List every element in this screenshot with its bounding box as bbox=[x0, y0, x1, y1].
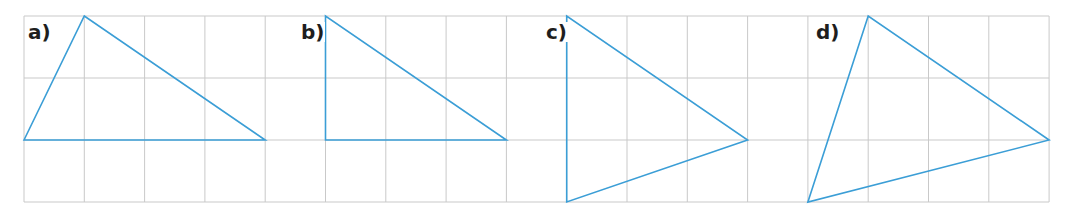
label-a: a) bbox=[27, 22, 52, 42]
label-c: c) bbox=[545, 22, 568, 42]
triangle-c bbox=[567, 16, 748, 202]
triangle-exercise-figure: a) b) c) d) bbox=[0, 0, 1070, 204]
label-d: d) bbox=[815, 22, 840, 42]
label-b: b) bbox=[300, 22, 325, 42]
square-grid bbox=[0, 0, 1070, 204]
